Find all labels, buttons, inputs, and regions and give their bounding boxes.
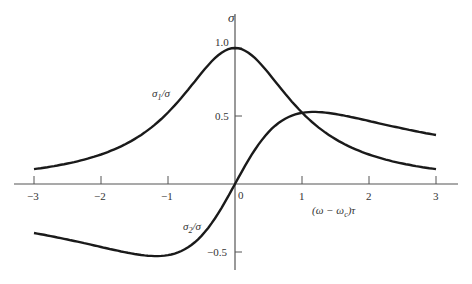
x-tick-label: 3 [433,190,439,202]
x-tick-label: 1 [299,190,305,202]
y-tick-label: 0.5 [215,110,229,122]
x-tick-label: 2 [366,190,372,202]
origin-label: 0 [238,189,244,201]
sigma2-label: σ2/σ [183,220,201,235]
y-axis-label: σ [228,10,235,25]
chart: −3−2−11231.00.5−0.5 σ 0 (ω − ωc)τ σ1/σ σ… [0,0,472,284]
x-tick-label: −2 [94,190,106,202]
y-tick-label: −0.5 [207,246,227,258]
sigma1-label: σ1/σ [152,87,170,102]
y-tick-label: 1.0 [215,36,229,48]
chart-svg: −3−2−11231.00.5−0.5 σ 0 (ω − ωc)τ σ1/σ σ… [0,0,472,284]
x-axis-label: (ω − ωc)τ [312,204,356,219]
axes: −3−2−11231.00.5−0.5 [14,14,458,270]
x-tick-label: −3 [27,190,39,202]
x-tick-label: −1 [161,190,173,202]
